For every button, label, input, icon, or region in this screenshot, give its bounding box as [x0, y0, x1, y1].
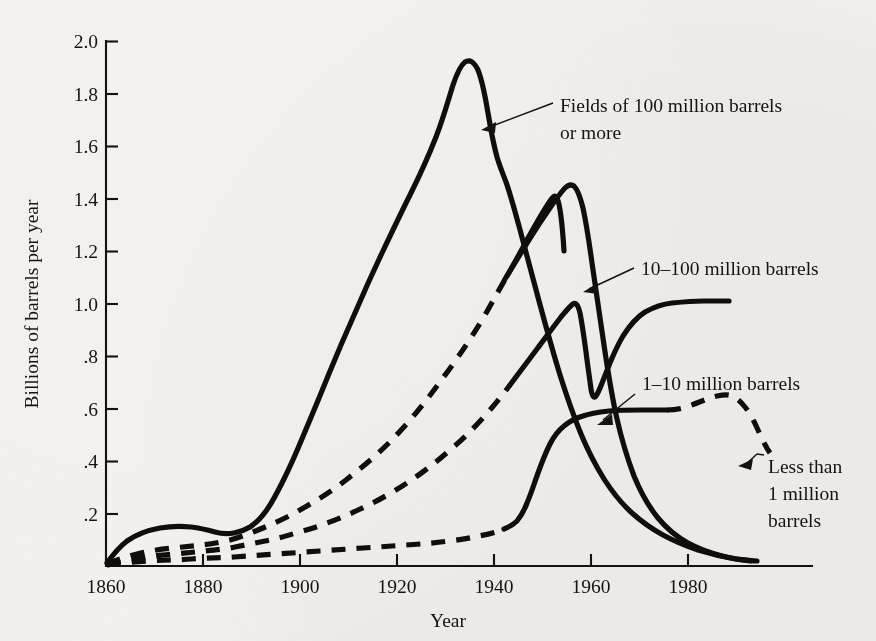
x-tick-labels: 1860 1880 1900 1920 1940 1960 1980 [87, 576, 708, 597]
x-tick-label-1960: 1960 [572, 576, 611, 597]
y-tick-label-0-2: .2 [83, 504, 98, 525]
annot-less1m-text-line2: 1 million [768, 483, 839, 504]
series-line-10-100-million-estimated [107, 276, 507, 564]
x-axis-title: Year [430, 610, 466, 631]
y-axis-title: Billions of barrels per year [21, 199, 42, 409]
x-tick-label-1900: 1900 [281, 576, 320, 597]
annot-100m-text-line2: or more [560, 122, 621, 143]
annot-less1m-arrowhead [738, 459, 753, 470]
annot-1-10m-text: 1–10 million barrels [642, 373, 800, 394]
annot-10-100m-text: 10–100 million barrels [641, 258, 819, 279]
y-tick-label-1-6: 1.6 [74, 136, 99, 157]
annot-less1m-leader-line2 [757, 454, 764, 455]
y-tick-label-0-8: .8 [83, 346, 98, 367]
series-group [107, 61, 770, 565]
annot-100-million-or-more: Fields of 100 million barrels or more [481, 95, 782, 143]
y-tick-label-1-0: 1.0 [74, 294, 98, 315]
x-tick-label-1880: 1880 [184, 576, 223, 597]
y-tick-label-1-8: 1.8 [74, 84, 98, 105]
x-tick-label-1860: 1860 [87, 576, 126, 597]
series-line-100-million-or-more [107, 61, 757, 563]
annot-1-10-million: 1–10 million barrels [597, 373, 800, 425]
annot-100m-text-line1: Fields of 100 million barrels [560, 95, 782, 116]
annot-100m-leader-line [487, 103, 553, 128]
x-tick-label-1940: 1940 [475, 576, 514, 597]
y-tick-marks [106, 42, 118, 515]
y-tick-label-0-6: .6 [83, 399, 98, 420]
y-tick-label-2-0: 2.0 [74, 31, 98, 52]
annot-10-100-million: 10–100 million barrels [583, 258, 819, 294]
chart-svg: 2.0 1.8 1.6 1.4 1.2 1.0 .8 .6 .4 .2 1860… [0, 0, 876, 641]
annot-less1m-text-line3: barrels [768, 510, 821, 531]
annot-10-100m-arrowhead [583, 283, 598, 294]
y-tick-label-0-4: .4 [83, 451, 98, 472]
y-tick-label-1-2: 1.2 [74, 241, 98, 262]
y-tick-label-1-4: 1.4 [74, 189, 99, 210]
series-line-less-1-million-projected [667, 395, 770, 453]
series-line-less-1-million [504, 410, 667, 529]
annot-less1m-text-line1: Less than [768, 456, 842, 477]
oil-discovery-chart-figure: 2.0 1.8 1.6 1.4 1.2 1.0 .8 .6 .4 .2 1860… [0, 0, 876, 641]
y-tick-labels: 2.0 1.8 1.6 1.4 1.2 1.0 .8 .6 .4 .2 [74, 31, 99, 525]
x-tick-label-1920: 1920 [378, 576, 417, 597]
annot-1-10m-arrowhead [597, 414, 613, 425]
annot-less-1-million: Less than 1 million barrels [738, 454, 842, 531]
x-tick-label-1980: 1980 [669, 576, 708, 597]
series-line-1-10-million-estimated [107, 385, 510, 565]
